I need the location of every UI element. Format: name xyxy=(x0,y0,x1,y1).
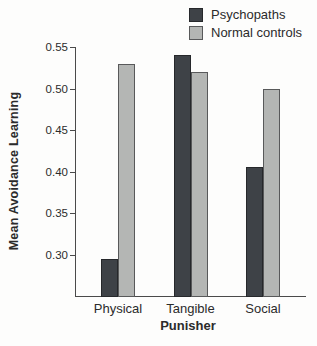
y-tick-0.50 xyxy=(70,89,75,90)
y-tick-label-0.30: 0.30 xyxy=(28,249,68,261)
bar-psychopaths-tangible xyxy=(174,55,191,297)
x-category-label-social: Social xyxy=(245,301,280,316)
legend-swatch-psychopaths xyxy=(189,8,203,22)
y-tick-label-0.45: 0.45 xyxy=(28,124,68,136)
y-axis-title: Mean Avoidance Learning xyxy=(7,92,21,251)
legend: Psychopaths Normal controls xyxy=(189,8,302,44)
y-axis-line xyxy=(75,47,76,297)
legend-swatch-normal-controls xyxy=(189,26,203,40)
avoidance-learning-chart: Mean Avoidance Learning Psychopaths Norm… xyxy=(0,0,317,346)
y-tick-label-0.50: 0.50 xyxy=(28,83,68,95)
bar-normal-controls-physical xyxy=(118,64,135,297)
legend-item-psychopaths: Psychopaths xyxy=(189,8,302,22)
bar-normal-controls-tangible xyxy=(191,72,208,297)
bar-psychopaths-physical xyxy=(101,259,118,297)
x-axis-title: Punisher xyxy=(160,318,216,333)
bar-psychopaths-social xyxy=(246,167,263,297)
y-tick-0.40 xyxy=(70,172,75,173)
y-tick-0.30 xyxy=(70,255,75,256)
y-tick-label-0.40: 0.40 xyxy=(28,166,68,178)
y-tick-0.55 xyxy=(70,47,75,48)
y-tick-label-0.35: 0.35 xyxy=(28,207,68,219)
y-tick-label-0.55: 0.55 xyxy=(28,41,68,53)
legend-label-psychopaths: Psychopaths xyxy=(211,8,285,22)
y-tick-0.45 xyxy=(70,130,75,131)
legend-label-normal-controls: Normal controls xyxy=(211,26,302,40)
y-tick-0.35 xyxy=(70,213,75,214)
bar-normal-controls-social xyxy=(263,89,280,298)
x-category-label-tangible: Tangible xyxy=(166,301,214,316)
legend-item-normal-controls: Normal controls xyxy=(189,26,302,40)
x-category-label-physical: Physical xyxy=(94,301,142,316)
